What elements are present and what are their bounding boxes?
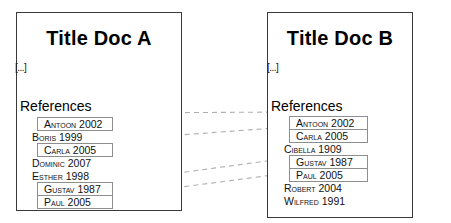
matched-reference-box[interactable]: Paul 2005 bbox=[37, 195, 113, 209]
doc-b-ellipsis: [...] bbox=[267, 62, 278, 73]
doc-a-ellipsis: [...] bbox=[15, 62, 26, 73]
reference-label: Robert 2004 bbox=[284, 182, 342, 194]
doc-a-title: Title Doc A bbox=[17, 27, 181, 50]
matched-reference-box[interactable]: Gustav 1987 bbox=[37, 182, 113, 196]
reference-entry: Robert 2004 bbox=[268, 182, 412, 195]
matched-reference-box[interactable]: Gustav 1987 bbox=[289, 155, 368, 169]
doc-a-references-heading: References bbox=[20, 98, 92, 114]
reference-label: Wilfred 1991 bbox=[284, 195, 345, 207]
document-b: Title Doc B [...] References Antoon 2002… bbox=[267, 12, 413, 218]
reference-label: Dominic 2007 bbox=[32, 157, 91, 169]
reference-entry: Carla 2005 bbox=[17, 144, 181, 157]
reference-label: Esther 1998 bbox=[32, 170, 89, 182]
reference-label: Cibella 1909 bbox=[284, 143, 342, 155]
reference-label: Boris 1999 bbox=[32, 131, 82, 143]
reference-entry: Wilfred 1991 bbox=[268, 195, 412, 208]
matched-reference-box[interactable]: Paul 2005 bbox=[289, 168, 368, 182]
matched-reference-box[interactable]: Carla 2005 bbox=[289, 129, 368, 143]
reference-entry: Antoon 2002 bbox=[17, 118, 181, 131]
matched-reference-box[interactable]: Antoon 2002 bbox=[37, 117, 113, 131]
document-a: Title Doc A [...] References Antoon 2002… bbox=[16, 12, 182, 211]
doc-b-title: Title Doc B bbox=[268, 27, 412, 50]
matched-reference-box[interactable]: Carla 2005 bbox=[37, 143, 113, 157]
matched-reference-box[interactable]: Antoon 2002 bbox=[289, 116, 368, 130]
reference-entry: Dominic 2007 bbox=[17, 157, 181, 170]
reference-entry: Paul 2005 bbox=[17, 196, 181, 209]
doc-b-reference-list: Antoon 2002Carla 2005Cibella 1909Gustav … bbox=[268, 117, 412, 208]
reference-entry: Carla 2005 bbox=[268, 130, 412, 143]
reference-entry: Paul 2005 bbox=[268, 169, 412, 182]
doc-b-references-heading: References bbox=[271, 98, 343, 114]
doc-a-reference-list: Antoon 2002Boris 1999Carla 2005Dominic 2… bbox=[17, 118, 181, 209]
citation-matching-diagram: Title Doc A [...] References Antoon 2002… bbox=[0, 0, 451, 223]
